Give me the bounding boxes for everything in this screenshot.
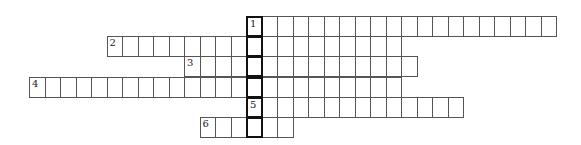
letter-cell[interactable] bbox=[324, 56, 341, 77]
letter-cell[interactable] bbox=[293, 77, 310, 98]
letter-cell[interactable] bbox=[308, 97, 325, 118]
letter-cell[interactable] bbox=[386, 56, 403, 77]
letter-cell[interactable] bbox=[277, 97, 294, 118]
keyword-cell[interactable] bbox=[246, 36, 263, 57]
letter-cell[interactable] bbox=[463, 16, 480, 37]
letter-cell[interactable] bbox=[215, 56, 232, 77]
letter-cell[interactable] bbox=[324, 97, 341, 118]
letter-cell[interactable] bbox=[479, 16, 496, 37]
letter-cell[interactable]: 6 bbox=[200, 117, 217, 138]
letter-cell[interactable] bbox=[308, 36, 325, 57]
letter-cell[interactable] bbox=[76, 77, 93, 98]
letter-cell[interactable] bbox=[355, 36, 372, 57]
keyword-cell[interactable] bbox=[246, 77, 263, 98]
letter-cell[interactable] bbox=[138, 36, 155, 57]
letter-cell[interactable] bbox=[277, 117, 294, 138]
letter-cell[interactable] bbox=[107, 77, 124, 98]
letter-cell[interactable] bbox=[277, 16, 294, 37]
letter-cell[interactable] bbox=[262, 117, 279, 138]
letter-cell[interactable] bbox=[339, 97, 356, 118]
letter-cell[interactable] bbox=[525, 16, 542, 37]
letter-cell[interactable] bbox=[277, 36, 294, 57]
letter-cell[interactable] bbox=[122, 36, 139, 57]
letter-cell[interactable] bbox=[355, 56, 372, 77]
letter-cell[interactable] bbox=[45, 77, 62, 98]
letter-cell[interactable] bbox=[293, 16, 310, 37]
letter-cell[interactable] bbox=[262, 56, 279, 77]
letter-cell[interactable] bbox=[184, 36, 201, 57]
clue-number: 3 bbox=[187, 57, 193, 68]
letter-cell[interactable] bbox=[262, 36, 279, 57]
letter-cell[interactable] bbox=[91, 77, 108, 98]
letter-cell[interactable] bbox=[541, 16, 558, 37]
letter-cell[interactable]: 2 bbox=[107, 36, 124, 57]
letter-cell[interactable] bbox=[200, 56, 217, 77]
letter-cell[interactable] bbox=[324, 36, 341, 57]
letter-cell[interactable] bbox=[324, 16, 341, 37]
keyword-cell[interactable] bbox=[246, 56, 263, 77]
letter-cell[interactable] bbox=[60, 77, 77, 98]
keyword-cell[interactable]: 5 bbox=[246, 97, 263, 118]
letter-cell[interactable] bbox=[386, 77, 403, 98]
letter-cell[interactable] bbox=[153, 77, 170, 98]
letter-cell[interactable] bbox=[494, 16, 511, 37]
keyword-cell[interactable] bbox=[246, 117, 263, 138]
letter-cell[interactable] bbox=[432, 97, 449, 118]
letter-cell[interactable] bbox=[215, 77, 232, 98]
letter-cell[interactable] bbox=[401, 97, 418, 118]
letter-cell[interactable] bbox=[200, 77, 217, 98]
letter-cell[interactable] bbox=[215, 117, 232, 138]
letter-cell[interactable] bbox=[169, 77, 186, 98]
letter-cell[interactable] bbox=[138, 77, 155, 98]
letter-cell[interactable] bbox=[401, 16, 418, 37]
letter-cell[interactable] bbox=[510, 16, 527, 37]
letter-cell[interactable] bbox=[153, 36, 170, 57]
letter-cell[interactable] bbox=[277, 77, 294, 98]
letter-cell[interactable] bbox=[308, 56, 325, 77]
letter-cell[interactable] bbox=[370, 56, 387, 77]
letter-cell[interactable] bbox=[370, 16, 387, 37]
letter-cell[interactable] bbox=[122, 77, 139, 98]
letter-cell[interactable] bbox=[339, 77, 356, 98]
letter-cell[interactable] bbox=[231, 56, 248, 77]
letter-cell[interactable] bbox=[308, 16, 325, 37]
letter-cell[interactable] bbox=[370, 97, 387, 118]
letter-cell[interactable] bbox=[386, 16, 403, 37]
letter-cell[interactable] bbox=[339, 36, 356, 57]
letter-cell[interactable] bbox=[417, 97, 434, 118]
letter-cell[interactable] bbox=[339, 56, 356, 77]
letter-cell[interactable] bbox=[262, 16, 279, 37]
letter-cell[interactable] bbox=[448, 16, 465, 37]
letter-cell[interactable] bbox=[262, 97, 279, 118]
letter-cell[interactable]: 4 bbox=[29, 77, 46, 98]
letter-cell[interactable] bbox=[277, 56, 294, 77]
letter-cell[interactable] bbox=[169, 36, 186, 57]
letter-cell[interactable] bbox=[432, 16, 449, 37]
letter-cell[interactable] bbox=[355, 77, 372, 98]
letter-cell[interactable]: 3 bbox=[184, 56, 201, 77]
letter-cell[interactable] bbox=[215, 36, 232, 57]
letter-cell[interactable] bbox=[448, 97, 465, 118]
letter-cell[interactable] bbox=[262, 77, 279, 98]
letter-cell[interactable] bbox=[293, 56, 310, 77]
letter-cell[interactable] bbox=[184, 77, 201, 98]
letter-cell[interactable] bbox=[293, 97, 310, 118]
keyword-cell[interactable]: 1 bbox=[246, 16, 263, 37]
letter-cell[interactable] bbox=[308, 77, 325, 98]
letter-cell[interactable] bbox=[231, 117, 248, 138]
letter-cell[interactable] bbox=[293, 36, 310, 57]
letter-cell[interactable] bbox=[355, 16, 372, 37]
letter-cell[interactable] bbox=[355, 97, 372, 118]
clue-number: 6 bbox=[203, 118, 209, 129]
letter-cell[interactable] bbox=[339, 16, 356, 37]
letter-cell[interactable] bbox=[324, 77, 341, 98]
letter-cell[interactable] bbox=[386, 97, 403, 118]
letter-cell[interactable] bbox=[200, 36, 217, 57]
letter-cell[interactable] bbox=[386, 36, 403, 57]
letter-cell[interactable] bbox=[370, 36, 387, 57]
letter-cell[interactable] bbox=[231, 77, 248, 98]
letter-cell[interactable] bbox=[417, 16, 434, 37]
letter-cell[interactable] bbox=[401, 56, 418, 77]
letter-cell[interactable] bbox=[370, 77, 387, 98]
letter-cell[interactable] bbox=[231, 36, 248, 57]
